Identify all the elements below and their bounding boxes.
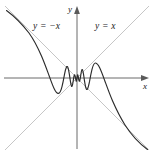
y-axis-label: y xyxy=(68,5,72,14)
plot-canvas xyxy=(0,0,154,152)
x-axis-label: x xyxy=(143,82,147,91)
y-axis-arrowhead-icon xyxy=(74,6,80,14)
envelope-label-negative-x: y = −x xyxy=(33,22,60,32)
envelope-label-positive-x: y = x xyxy=(95,22,116,32)
figure-container: y x y = −x y = x xyxy=(0,0,154,152)
